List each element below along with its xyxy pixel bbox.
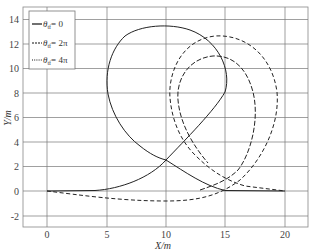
svg-text:5: 5 [105, 229, 110, 240]
trajectory-chart: 14 12 10 8 6 4 2 0 -2 0 5 10 15 20 X/m Y… [0, 0, 312, 252]
svg-text:20: 20 [280, 229, 290, 240]
svg-text:-2: -2 [11, 211, 19, 222]
legend-item-2: θtf= 4π [43, 55, 68, 66]
legend: θtf= 0 θtf= 2π θtf= 4π [29, 11, 75, 69]
svg-text:6: 6 [14, 112, 19, 123]
svg-text:10: 10 [9, 63, 19, 74]
svg-text:0: 0 [14, 186, 19, 197]
svg-text:10: 10 [161, 229, 171, 240]
svg-text:2: 2 [14, 161, 19, 172]
legend-item-1: θtf= 2π [43, 38, 68, 49]
x-tick-labels: 0 5 10 15 20 [45, 229, 291, 240]
svg-text:4: 4 [14, 137, 19, 148]
svg-text:12: 12 [9, 39, 19, 50]
svg-text:14: 14 [9, 14, 19, 25]
svg-text:8: 8 [14, 88, 19, 99]
svg-text:0: 0 [45, 229, 50, 240]
legend-item-0: θtf= 0 [43, 19, 63, 30]
y-axis-label: Y/m [2, 110, 13, 126]
svg-text:15: 15 [220, 229, 230, 240]
x-axis-label: X/m [154, 240, 171, 251]
